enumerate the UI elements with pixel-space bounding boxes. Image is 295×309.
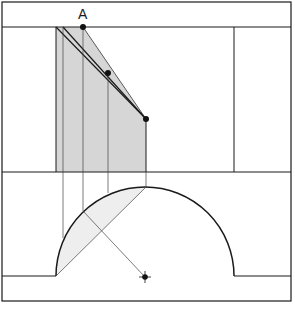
point-a-dot [80, 24, 86, 30]
radial-line [83, 211, 145, 277]
geometry-diagram [0, 0, 295, 309]
point-mid-dot [105, 70, 111, 76]
point-right-dot [143, 116, 149, 122]
point-a-label: A [78, 6, 87, 22]
